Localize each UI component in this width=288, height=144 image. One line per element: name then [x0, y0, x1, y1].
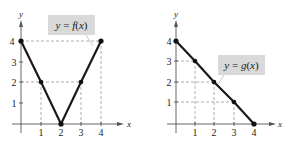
f-points	[18, 38, 103, 126]
x-axis-arrow-icon	[269, 122, 276, 126]
y-tick-2: 2	[167, 77, 172, 88]
x-tick-4: 4	[99, 127, 104, 138]
svg-text:y = f(x): y = f(x)	[55, 19, 88, 32]
x-tick-3: 3	[232, 127, 237, 138]
y-axis-arrow-icon	[19, 20, 23, 27]
x-tick-2: 2	[212, 127, 217, 138]
x-tick-2: 2	[59, 127, 64, 138]
f-line	[21, 41, 101, 124]
y-tick-2: 2	[12, 77, 17, 88]
chart-g-svg: 1 2 3 4 1 2 3 4 y x y = g(x)	[144, 0, 288, 144]
axes	[12, 24, 120, 133]
guide-lines	[21, 41, 101, 124]
chart-f-svg: 1 2 3 4 1 2 3 4 y x y = f(x)	[0, 0, 144, 144]
function-label-g: y = g(x)	[218, 55, 265, 84]
x-tick-1: 1	[39, 127, 44, 138]
x-axis-label: x	[126, 119, 131, 129]
y-tick-1: 1	[12, 98, 17, 109]
y-tick-4: 4	[167, 36, 172, 47]
x-tick-4: 4	[252, 127, 257, 138]
y-tick-3: 3	[12, 57, 17, 68]
ticks	[19, 41, 101, 126]
x-tick-1: 1	[193, 127, 198, 138]
y-tick-4: 4	[10, 36, 15, 47]
y-axis-label: y	[18, 9, 23, 19]
chart-f-of-x: 1 2 3 4 1 2 3 4 y x y = f(x)	[0, 0, 144, 144]
svg-text:y = g(x): y = g(x)	[223, 59, 259, 72]
y-tick-3: 3	[167, 56, 172, 67]
y-tick-1: 1	[167, 97, 172, 108]
x-tick-3: 3	[79, 127, 84, 138]
y-axis-arrow-icon	[174, 20, 178, 27]
x-axis-arrow-icon	[117, 122, 124, 126]
y-axis-label: y	[173, 9, 178, 19]
axes	[167, 24, 272, 133]
x-axis-label: x	[277, 119, 282, 129]
chart-g-of-x: 1 2 3 4 1 2 3 4 y x y = g(x)	[144, 0, 288, 144]
